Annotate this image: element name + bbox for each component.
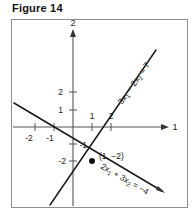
y-tick-label--1: -1 [79, 140, 87, 150]
x-tick-label--1: -1 [46, 133, 54, 143]
x-tick-label-2: 2 [109, 111, 114, 121]
y-tick-label-2: 2 [58, 87, 63, 97]
plot-svg: -2 -1 1 2 2 1 -1 -2 2 1 (1, −2) 3x1 − 2x… [0, 0, 196, 217]
x-axis-name-label: 1 [172, 122, 177, 132]
y-tick-label--2: -2 [58, 156, 66, 166]
x-axis-arrow-icon [161, 124, 169, 130]
intersection-point-label: (1, −2) [99, 151, 124, 161]
y-axis-arrow-icon [70, 29, 76, 37]
y-tick-label-1: 1 [58, 105, 63, 115]
line-2x1-plus-3x2-equals-minus4 [14, 103, 162, 191]
equation-label-line-1: 3x1 − 2x2 = 7 [115, 60, 152, 107]
figure-container: Figure 14 -2 -1 1 2 2 1 [0, 0, 196, 217]
x-tick-label-1: 1 [90, 111, 95, 121]
y-axis-name-label: 2 [70, 18, 75, 28]
intersection-point-dot [89, 158, 95, 164]
line-2-arrow-icon [156, 186, 165, 193]
equation-label-line-1-group: 3x1 − 2x2 = 7 [115, 60, 152, 107]
x-tick-label--2: -2 [25, 133, 33, 143]
